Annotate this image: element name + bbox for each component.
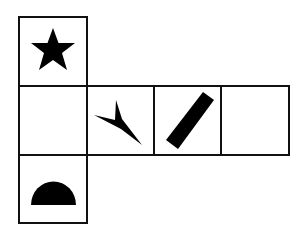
net-symbols	[0, 0, 304, 242]
diagonal-bar-icon	[166, 92, 214, 149]
arrowhead-icon	[94, 100, 142, 145]
half-circle-icon	[31, 181, 76, 205]
star-icon	[31, 28, 75, 70]
